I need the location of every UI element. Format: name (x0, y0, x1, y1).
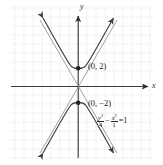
x-axis-label: x (152, 82, 156, 90)
equation-term-1-exponent: 2 (101, 113, 103, 118)
equation-term-1: y2 4 (97, 113, 104, 129)
hyperbola-figure: x y (0, 2) (0, −2) y2 4 − x2 1 =1 (0, 0, 163, 165)
vertex-label-upper: (0, 2) (88, 62, 106, 71)
graph-canvas (0, 0, 163, 165)
equation-term-1-numerator: y2 (97, 113, 104, 121)
vertex-point-upper (76, 66, 81, 71)
equation-right-hand-side: 1 (123, 116, 127, 125)
equation-label: y2 4 − x2 1 =1 (96, 113, 127, 129)
equation-term-2-exponent: 2 (115, 113, 117, 118)
vertex-label-lower: (0, −2) (88, 99, 111, 108)
y-axis-label: y (80, 3, 84, 11)
equation-operator: − (105, 116, 110, 125)
grid-lines (11, 6, 156, 160)
equation-term-2-denominator: 1 (111, 121, 118, 129)
equation-term-2-numerator: x2 (111, 113, 118, 121)
vertex-point-lower (76, 100, 81, 105)
equation-term-1-denominator: 4 (97, 121, 104, 129)
equation-term-2: x2 1 (111, 113, 118, 129)
